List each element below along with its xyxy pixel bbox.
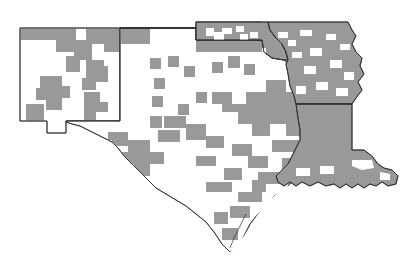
map-figure	[0, 0, 418, 277]
map-canvas	[0, 0, 418, 277]
state-new-mexico	[20, 28, 120, 133]
